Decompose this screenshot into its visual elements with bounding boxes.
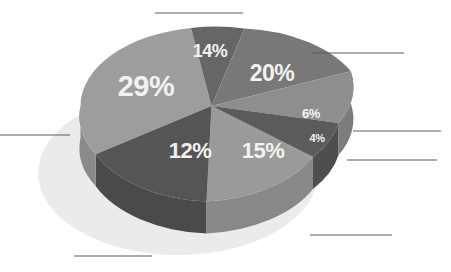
slice-label-12: 12% xyxy=(169,138,212,163)
pie-chart-figure: 29% 14% 20% 6% 4% 15% 12% xyxy=(0,0,451,272)
slice-label-20: 20% xyxy=(250,60,295,86)
slice-label-15: 15% xyxy=(242,138,285,163)
slice-label-4: 4% xyxy=(310,132,326,144)
slice-label-6: 6% xyxy=(302,106,321,121)
slice-label-29: 29% xyxy=(118,70,175,102)
slice-label-14: 14% xyxy=(193,41,228,61)
pie-chart-svg: 29% 14% 20% 6% 4% 15% 12% xyxy=(0,0,451,272)
